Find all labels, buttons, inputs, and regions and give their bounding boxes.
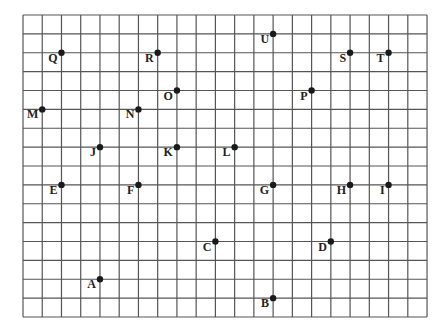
point-r: R	[145, 50, 161, 65]
point-t: T	[377, 50, 392, 65]
point-h: H	[337, 182, 354, 197]
point-dot	[231, 144, 237, 150]
point-n: N	[126, 106, 142, 121]
point-label: I	[380, 183, 385, 197]
point-dot	[174, 144, 180, 150]
point-label: D	[318, 240, 327, 254]
point-dot	[347, 50, 353, 56]
point-label: P	[300, 89, 307, 103]
plotted-points: ABCDEFGHIJKLMNOPQRSTU	[27, 31, 392, 310]
point-dot	[39, 106, 45, 112]
point-dot	[174, 87, 180, 93]
point-b: B	[261, 295, 276, 310]
point-s: S	[339, 50, 353, 65]
point-j: J	[90, 144, 103, 159]
point-dot	[97, 144, 103, 150]
point-label: Q	[48, 51, 57, 65]
point-dot	[385, 182, 391, 188]
point-o: O	[164, 87, 181, 102]
point-p: P	[300, 87, 315, 102]
point-c: C	[203, 238, 219, 253]
point-dot	[347, 182, 353, 188]
point-dot	[270, 182, 276, 188]
point-label: K	[164, 145, 174, 159]
point-dot	[97, 276, 103, 282]
point-q: Q	[48, 50, 65, 65]
point-label: S	[339, 51, 346, 65]
point-label: E	[49, 183, 57, 197]
point-dot	[154, 50, 160, 56]
point-d: D	[318, 238, 334, 253]
point-dot	[135, 106, 141, 112]
grid-lines	[23, 15, 427, 317]
point-dot	[212, 238, 218, 244]
coordinate-grid: ABCDEFGHIJKLMNOPQRSTU	[0, 0, 436, 328]
point-dot	[328, 238, 334, 244]
point-dot	[270, 31, 276, 37]
point-label: J	[90, 145, 96, 159]
point-f: F	[127, 182, 142, 197]
point-label: C	[203, 240, 212, 254]
point-a: A	[87, 276, 103, 291]
point-dot	[270, 295, 276, 301]
point-label: N	[126, 107, 135, 121]
point-label: F	[127, 183, 134, 197]
point-label: R	[145, 51, 154, 65]
point-k: K	[164, 144, 181, 159]
point-dot	[385, 50, 391, 56]
point-label: M	[27, 107, 38, 121]
point-label: G	[260, 183, 269, 197]
point-label: H	[337, 183, 347, 197]
point-dot	[308, 87, 314, 93]
point-label: T	[377, 51, 385, 65]
point-dot	[58, 50, 64, 56]
point-dot	[58, 182, 64, 188]
point-l: L	[223, 144, 238, 159]
point-dot	[135, 182, 141, 188]
point-label: O	[164, 89, 173, 103]
point-label: U	[260, 32, 269, 46]
point-label: A	[87, 277, 96, 291]
point-label: L	[223, 145, 231, 159]
point-e: E	[49, 182, 64, 197]
point-g: G	[260, 182, 277, 197]
point-i: I	[380, 182, 392, 197]
point-label: B	[261, 296, 269, 310]
point-u: U	[260, 31, 276, 46]
